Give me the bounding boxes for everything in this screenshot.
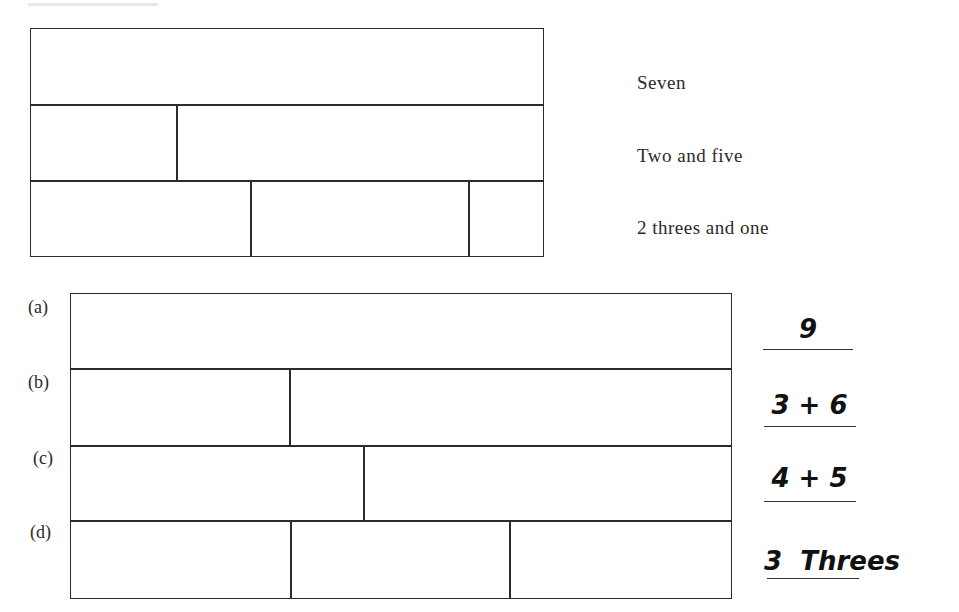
exercise-row-c-cell-four — [70, 445, 365, 522]
exercise-row-d-cell-three-b — [290, 520, 511, 599]
row-marker-b: (b) — [28, 372, 49, 393]
answer-line-a — [763, 349, 853, 350]
answer-line-d — [767, 578, 859, 579]
example-row-1-cell — [30, 28, 544, 106]
example-label-two-and-five: Two and five — [637, 145, 743, 167]
answer-b[interactable]: 3 + 6 — [762, 390, 857, 420]
exercise-row-d-cell-three-a — [70, 520, 292, 599]
exercise-row-b-cell-six — [289, 368, 732, 447]
row-marker-d: (d) — [30, 522, 51, 543]
exercise-row-a-cell — [70, 293, 732, 370]
exercise-row-c-cell-five — [363, 445, 732, 522]
row-marker-c: (c) — [33, 448, 53, 469]
row-marker-a: (a) — [28, 297, 48, 318]
example-row-2-cell-five — [176, 104, 544, 182]
example-row-3-cell-one — [468, 180, 544, 257]
example-label-threes-and-one: 2 threes and one — [637, 217, 769, 239]
example-row-3-cell-three-a — [30, 180, 252, 257]
exercise-row-d-cell-three-c — [509, 520, 732, 599]
answer-line-c — [764, 501, 856, 502]
answer-d[interactable]: 3 Threes — [764, 546, 934, 576]
answer-c[interactable]: 4 + 5 — [762, 463, 857, 493]
example-row-3-cell-three-b — [250, 180, 470, 257]
example-row-2-cell-two — [30, 104, 178, 182]
answer-a[interactable]: 9 — [762, 314, 854, 344]
example-label-seven: Seven — [637, 72, 686, 94]
cropped-heading — [28, 0, 158, 6]
answer-line-b — [764, 426, 856, 427]
exercise-row-b-cell-three — [70, 368, 291, 447]
